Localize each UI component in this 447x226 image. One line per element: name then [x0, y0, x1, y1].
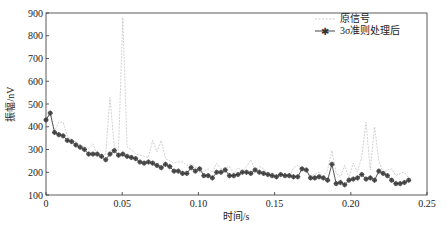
asterisk-marker-icon [287, 173, 292, 178]
series-original-line [46, 18, 409, 178]
asterisk-marker-icon [270, 173, 275, 178]
asterisk-marker-icon [154, 163, 159, 168]
asterisk-marker-icon [329, 162, 334, 167]
asterisk-marker-icon [129, 155, 134, 160]
line-chart: 00.050.100.150.200.25 100200300400500600… [0, 0, 447, 226]
asterisk-marker-icon [257, 170, 262, 175]
y-tick-label: 700 [28, 53, 43, 64]
asterisk-marker-icon [304, 167, 309, 172]
asterisk-marker-icon [197, 166, 202, 171]
x-tick-label: 0.20 [342, 198, 360, 209]
asterisk-marker-icon [312, 175, 317, 180]
legend: 原信号 ✱ 3σ准则处理后 [315, 13, 400, 37]
asterisk-marker-icon [325, 178, 330, 183]
legend-label-original: 原信号 [340, 13, 370, 24]
y-axis-label: 振幅/nV [4, 86, 16, 122]
asterisk-marker-icon [150, 161, 155, 166]
x-tick-label: 0.05 [113, 198, 131, 209]
asterisk-marker-icon [235, 172, 240, 177]
asterisk-marker-icon [120, 151, 125, 156]
y-tick-label: 800 [28, 30, 43, 41]
asterisk-marker-icon [321, 175, 326, 180]
asterisk-marker-icon [372, 178, 377, 183]
asterisk-marker-icon: ✱ [321, 26, 329, 37]
asterisk-marker-icon [376, 169, 381, 174]
y-tick-label: 100 [28, 190, 43, 201]
asterisk-marker-icon [176, 169, 181, 174]
y-tick-label: 500 [28, 99, 43, 110]
x-tick-label: 0.15 [266, 198, 284, 209]
asterisk-marker-icon [406, 178, 411, 183]
plot-frame [46, 13, 427, 195]
y-tick-label: 900 [28, 8, 43, 19]
asterisk-marker-icon [124, 154, 129, 159]
asterisk-marker-icon [402, 180, 407, 185]
x-tick-label: 0.25 [418, 198, 436, 209]
asterisk-marker-icon [95, 151, 100, 156]
asterisk-marker-icon [146, 159, 151, 164]
legend-label-processed: 3σ准则处理后 [340, 24, 400, 36]
asterisk-marker-icon [48, 111, 53, 116]
x-tick-label: 0 [44, 198, 49, 209]
plot-area [43, 18, 411, 188]
asterisk-marker-icon [261, 171, 266, 176]
asterisk-marker-icon [231, 173, 236, 178]
asterisk-marker-icon [295, 174, 300, 179]
asterisk-marker-icon [206, 173, 211, 178]
asterisk-marker-icon [52, 130, 57, 135]
asterisk-marker-icon [351, 176, 356, 181]
asterisk-marker-icon [338, 180, 343, 185]
y-tick-label: 600 [28, 76, 43, 87]
asterisk-marker-icon [56, 132, 61, 137]
asterisk-marker-icon [142, 161, 147, 166]
asterisk-marker-icon [398, 181, 403, 186]
asterisk-marker-icon [368, 175, 373, 180]
asterisk-marker-icon [244, 170, 249, 175]
y-tick-label: 400 [28, 121, 43, 132]
asterisk-marker-icon [278, 172, 283, 177]
series-processed-line [46, 113, 409, 185]
asterisk-marker-icon [334, 181, 339, 186]
y-tick-label: 300 [28, 144, 43, 155]
asterisk-marker-icon [218, 170, 223, 175]
x-tick-label: 0.10 [190, 198, 208, 209]
x-axis-label: 时间/s [223, 210, 250, 222]
asterisk-marker-icon [78, 145, 83, 150]
y-tick-label: 200 [28, 167, 43, 178]
x-axis: 00.050.100.150.200.25 [44, 192, 436, 209]
